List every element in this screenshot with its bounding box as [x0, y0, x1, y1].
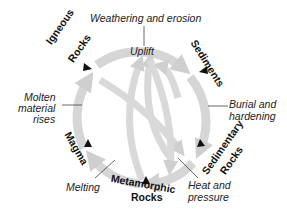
marker-igneous [83, 63, 92, 71]
label-molten-line3: rises [33, 114, 55, 125]
arrow-burial [190, 77, 206, 150]
label-burial-line1: Burial and [229, 99, 276, 110]
label-heat-line1: Heat and [188, 180, 231, 191]
rock-cycle-diagram: Weathering and erosion Uplift Burial and… [0, 0, 287, 212]
label-metamorphic-line2: Rocks [131, 192, 163, 203]
label-heat-line2: pressure [188, 192, 229, 203]
label-weathering-erosion: Weathering and erosion [90, 13, 201, 24]
label-uplift: Uplift [130, 46, 154, 57]
label-melting: Melting [66, 182, 100, 193]
arrow-molten-rises [77, 80, 88, 148]
